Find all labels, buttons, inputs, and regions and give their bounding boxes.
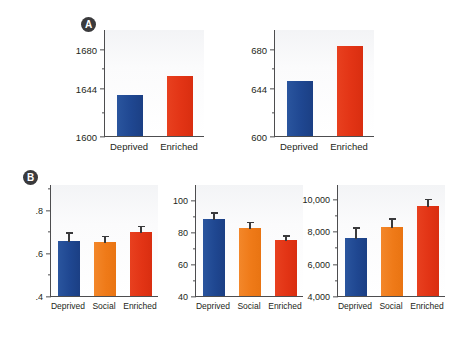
- y-axis-label: 1680: [76, 44, 97, 55]
- bar-enriched: [167, 76, 193, 136]
- x-axis-label-deprived: Deprived: [50, 301, 86, 311]
- error-bar-cap-social: [389, 218, 396, 219]
- y-axis-label: 600: [251, 132, 267, 143]
- y-axis-label: 644: [251, 83, 267, 94]
- y-axis-tick: [46, 210, 51, 211]
- y-axis-label: 680: [251, 44, 267, 55]
- y-axis-tick: [333, 199, 338, 200]
- y-axis-tick: [46, 296, 51, 297]
- y-axis-minor-tick: [48, 232, 52, 233]
- y-axis-tick: [333, 264, 338, 265]
- y-axis-minor-tick: [102, 112, 106, 113]
- y-axis-minor-tick: [272, 69, 276, 70]
- y-axis-label: 60: [178, 260, 188, 270]
- y-axis-label: 10,000: [302, 195, 330, 205]
- y-axis-minor-tick: [335, 248, 339, 249]
- y-axis-tick: [270, 136, 275, 137]
- chart-synapses: Synapses (per mm3) .4.6.8 DeprivedSocial…: [50, 185, 158, 315]
- y-axis-tick: [100, 136, 105, 137]
- y-axis-minor-tick: [102, 69, 106, 70]
- y-axis-minor-tick: [48, 189, 52, 190]
- y-axis-tick: [100, 88, 105, 89]
- error-bar-social: [391, 218, 392, 228]
- panel-label-b: B: [23, 170, 38, 185]
- y-axis-minor-tick: [335, 280, 339, 281]
- x-axis-label-enriched: Enriched: [154, 141, 204, 152]
- y-axis-label: 6,000: [307, 260, 330, 270]
- y-axis-minor-tick: [48, 275, 52, 276]
- error-bar-cap-enriched: [425, 199, 432, 200]
- y-axis-tick: [191, 232, 196, 233]
- y-axis-tick: [333, 296, 338, 297]
- error-bar-cap-enriched: [283, 235, 290, 236]
- error-bar-cap-deprived: [353, 227, 360, 228]
- y-axis-label: 1600: [76, 132, 97, 143]
- y-axis-tick: [191, 296, 196, 297]
- y-axis-label: 100: [173, 196, 188, 206]
- chart-cerebral-cortex: Cerebral cortex (mg) 600644680 DeprivedE…: [274, 30, 374, 160]
- x-axis-label-deprived: Deprived: [195, 301, 231, 311]
- bar-enriched: [337, 46, 363, 136]
- x-axis-label-deprived: Deprived: [104, 141, 154, 152]
- x-axis-label-social: Social: [373, 301, 409, 311]
- x-axis-label-social: Social: [86, 301, 122, 311]
- bar-social: [239, 228, 261, 296]
- bar-deprived: [287, 81, 313, 136]
- chart-neurons: Neurons (per cm3) 406080100 DeprivedSoci…: [195, 185, 303, 315]
- y-axis-tick: [270, 49, 275, 50]
- x-axis-label-enriched: Enriched: [409, 301, 445, 311]
- bar-social: [381, 227, 403, 296]
- x-axis-label-deprived: Deprived: [274, 141, 324, 152]
- y-axis-label: 1644: [76, 83, 97, 94]
- y-axis-tick: [191, 200, 196, 201]
- plot-area-synapses: .4.6.8: [50, 185, 158, 297]
- y-axis-label: .6: [35, 249, 43, 259]
- plot-area-cerebral-cortex: 600644680: [274, 30, 374, 137]
- y-axis-minor-tick: [193, 216, 197, 217]
- bar-deprived: [58, 241, 80, 296]
- y-axis-label: .8: [35, 206, 43, 216]
- bar-deprived: [345, 238, 367, 296]
- error-bar-cap-social: [102, 236, 109, 237]
- y-axis-tick: [46, 253, 51, 254]
- y-axis-tick: [270, 88, 275, 89]
- y-axis-minor-tick: [335, 215, 339, 216]
- x-axis-label-enriched: Enriched: [122, 301, 158, 311]
- chart-synapses-per-neurons: Synapses/neurons 4,0006,0008,00010,000 D…: [337, 185, 445, 315]
- error-bar-cap-enriched: [138, 226, 145, 227]
- y-axis-label: .4: [35, 292, 43, 302]
- bar-enriched: [417, 206, 439, 296]
- error-bar-cap-deprived: [66, 232, 73, 233]
- y-axis-minor-tick: [272, 112, 276, 113]
- x-axis-label-social: Social: [231, 301, 267, 311]
- panel-label-a: A: [81, 17, 96, 32]
- y-axis-tick: [333, 231, 338, 232]
- bar-deprived: [203, 219, 225, 296]
- y-axis-label: 4,000: [307, 292, 330, 302]
- plot-area-neurons: 406080100: [195, 185, 303, 297]
- bar-enriched: [130, 232, 152, 296]
- error-bar-cap-deprived: [211, 212, 218, 213]
- chart-total-brain: Total brain (mg) 160016441680 DeprivedEn…: [104, 30, 204, 160]
- x-axis-label-deprived: Deprived: [337, 301, 373, 311]
- plot-area-total-brain: 160016441680: [104, 30, 204, 137]
- error-bar-deprived: [68, 232, 69, 242]
- bar-social: [94, 242, 116, 296]
- error-bar-deprived: [355, 227, 356, 238]
- bar-enriched: [275, 240, 297, 296]
- bar-deprived: [117, 95, 143, 136]
- y-axis-label: 40: [178, 292, 188, 302]
- y-axis-minor-tick: [193, 280, 197, 281]
- plot-area-synapses-per-neurons: 4,0006,0008,00010,000: [337, 185, 445, 297]
- x-axis-label-enriched: Enriched: [324, 141, 374, 152]
- y-axis-label: 8,000: [307, 227, 330, 237]
- error-bar-cap-social: [247, 222, 254, 223]
- y-axis-tick: [100, 49, 105, 50]
- y-axis-tick: [191, 264, 196, 265]
- figure-root: A Total brain (mg) 160016441680 Deprived…: [0, 0, 456, 337]
- y-axis-minor-tick: [193, 248, 197, 249]
- y-axis-label: 80: [178, 228, 188, 238]
- x-axis-label-enriched: Enriched: [267, 301, 303, 311]
